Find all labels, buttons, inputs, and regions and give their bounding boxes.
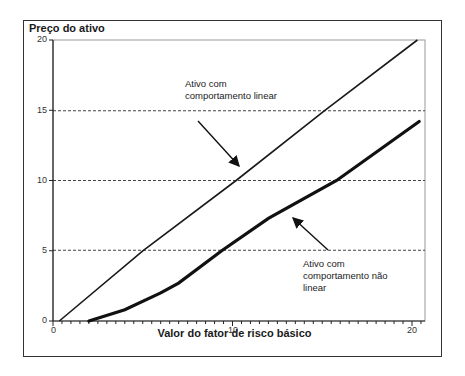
y-tick-label: 5: [42, 245, 47, 255]
annotation-nonlinear: Ativo com comportamento não linear: [303, 258, 388, 294]
y-tick-label: 15: [37, 105, 47, 115]
annotation-arrow-linear: [198, 121, 239, 166]
y-tick-label: 0: [42, 315, 47, 325]
annotation-arrow-nonlinear: [293, 218, 328, 250]
x-tick-label: 10: [228, 325, 238, 335]
chart-plot: [0, 0, 465, 376]
y-tick-label: 10: [37, 175, 47, 185]
x-tick-label: 0: [51, 325, 56, 335]
gridlines: [53, 111, 425, 251]
y-axis-title: Preço do ativo: [29, 22, 105, 34]
y-tick-label: 20: [37, 34, 47, 44]
annotation-linear: Ativo com comportamento linear: [185, 78, 277, 102]
x-tick-label: 20: [407, 325, 417, 335]
